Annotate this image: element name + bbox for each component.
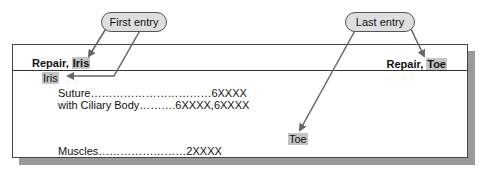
- arrow-first-to-iris: [68, 27, 142, 76]
- callout-last-entry: Last entry: [345, 12, 415, 32]
- arrow-last-to-toe: [300, 27, 357, 130]
- callout-first-entry: First entry: [101, 12, 167, 32]
- arrow-first-to-guide: [89, 27, 107, 56]
- arrow-last-to-guide: [410, 27, 424, 56]
